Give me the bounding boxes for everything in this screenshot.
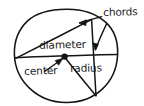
label-chords: chords <box>103 6 138 18</box>
chord-lower-line <box>92 20 96 96</box>
label-center: center <box>24 65 58 77</box>
circle-diagram-canvas: chords diameter center radius <box>0 0 144 106</box>
label-radius: radius <box>70 62 102 74</box>
label-diameter: diameter <box>39 39 86 51</box>
